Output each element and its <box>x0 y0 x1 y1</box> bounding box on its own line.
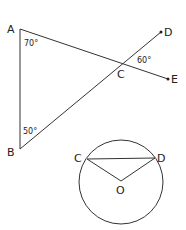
segment-bd <box>20 32 161 149</box>
figure-triangle: A B C D E 70° 50° 60° <box>7 23 178 159</box>
circle-o <box>79 140 163 224</box>
circle-label-o: O <box>116 184 125 197</box>
angle-dce-label: 60° <box>137 56 151 65</box>
figure-circle: C D O <box>74 140 165 224</box>
circle-label-c: C <box>74 152 82 165</box>
chord-cd <box>87 158 155 159</box>
label-d: D <box>164 26 172 39</box>
radius-oc <box>87 159 121 181</box>
label-a: A <box>7 23 15 36</box>
label-c: C <box>117 68 125 81</box>
angle-b-label: 50° <box>23 127 37 136</box>
label-e: E <box>171 73 178 86</box>
point-e-dot <box>167 78 170 81</box>
segment-ae <box>20 29 168 79</box>
radius-od <box>121 158 155 181</box>
circle-label-d: D <box>157 152 165 165</box>
label-b: B <box>7 146 15 159</box>
point-d-dot <box>160 31 163 34</box>
geometry-diagram: A B C D E 70° 50° 60° C D O <box>0 0 186 230</box>
angle-a-label: 70° <box>24 39 38 48</box>
